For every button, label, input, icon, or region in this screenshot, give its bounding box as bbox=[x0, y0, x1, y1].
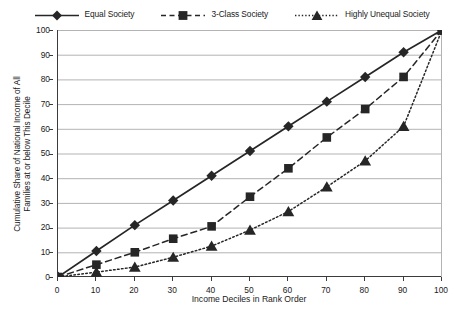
y-tick-mark bbox=[49, 104, 53, 105]
diamond-marker bbox=[398, 47, 408, 57]
x-tick-mark bbox=[95, 277, 96, 281]
triangle-marker bbox=[321, 181, 333, 191]
legend-label: Highly Unequal Society bbox=[345, 9, 429, 19]
square-marker bbox=[284, 164, 293, 173]
triangle-marker bbox=[283, 206, 295, 216]
plot-area bbox=[57, 30, 441, 277]
x-tick-mark bbox=[441, 277, 442, 281]
triangle-marker bbox=[398, 121, 410, 131]
y-tick-mark bbox=[49, 178, 53, 179]
legend-label: 3-Class Society bbox=[211, 9, 268, 19]
triangle-marker bbox=[206, 241, 218, 251]
y-tick-label: 100 bbox=[24, 26, 50, 34]
chart-legend: Equal Society 3-Class Society Highly Une… bbox=[0, 4, 463, 24]
diamond-marker bbox=[322, 96, 332, 106]
x-tick-mark bbox=[364, 277, 365, 281]
x-tick-mark bbox=[249, 277, 250, 281]
x-tick-mark bbox=[134, 277, 135, 281]
x-tick-mark bbox=[287, 277, 288, 281]
diamond-marker bbox=[245, 146, 255, 156]
legend-item-equal-society: Equal Society bbox=[34, 8, 135, 21]
diamond-marker bbox=[168, 195, 178, 205]
legend-item-highly-unequal-society: Highly Unequal Society bbox=[294, 8, 429, 21]
diamond-marker bbox=[130, 220, 140, 230]
diamond-marker bbox=[206, 171, 216, 181]
y-tick-mark bbox=[49, 277, 53, 278]
square-marker bbox=[323, 133, 332, 142]
y-tick-mark bbox=[49, 228, 53, 229]
x-tick-mark bbox=[211, 277, 212, 281]
square-marker bbox=[246, 192, 255, 201]
diamond-marker bbox=[91, 246, 101, 256]
y-axis-title: Cumulative Share of National Income of A… bbox=[13, 49, 33, 259]
x-tick-mark bbox=[326, 277, 327, 281]
y-tick-mark bbox=[49, 154, 53, 155]
square-marker bbox=[169, 234, 178, 243]
square-marker bbox=[361, 105, 370, 114]
legend-swatch-square-dashed-icon bbox=[160, 8, 206, 21]
x-tick-mark bbox=[172, 277, 173, 281]
legend-swatch-diamond-solid-icon bbox=[34, 8, 80, 21]
square-marker bbox=[399, 73, 408, 82]
triangle-marker bbox=[244, 224, 256, 234]
y-tick-mark bbox=[49, 129, 53, 130]
diamond-marker bbox=[283, 121, 293, 131]
diamond-marker bbox=[360, 72, 370, 82]
y-tick-mark bbox=[49, 30, 53, 31]
square-marker bbox=[131, 248, 140, 257]
y-axis-title-line-1: Cumulative Share of National Income of A… bbox=[13, 49, 23, 259]
legend-label: Equal Society bbox=[85, 9, 135, 19]
legend-swatch-triangle-dotted-icon bbox=[294, 8, 340, 21]
y-tick-mark bbox=[49, 203, 53, 204]
y-axis-title-line-2: Families at or below This Decile bbox=[23, 49, 33, 259]
lorenz-curve-chart: Equal Society 3-Class Society Highly Une… bbox=[0, 0, 463, 315]
y-tick-label: 0 bbox=[24, 273, 50, 281]
x-tick-mark bbox=[57, 277, 58, 281]
triangle-marker bbox=[359, 155, 371, 165]
y-tick-mark bbox=[49, 79, 53, 80]
y-tick-mark bbox=[49, 252, 53, 253]
y-tick-mark bbox=[49, 55, 53, 56]
plot-canvas bbox=[58, 30, 442, 277]
x-tick-mark bbox=[403, 277, 404, 281]
square-marker bbox=[207, 222, 216, 231]
legend-item-3-class-society: 3-Class Society bbox=[160, 8, 268, 21]
x-axis-title: Income Deciles in Rank Order bbox=[57, 294, 441, 304]
